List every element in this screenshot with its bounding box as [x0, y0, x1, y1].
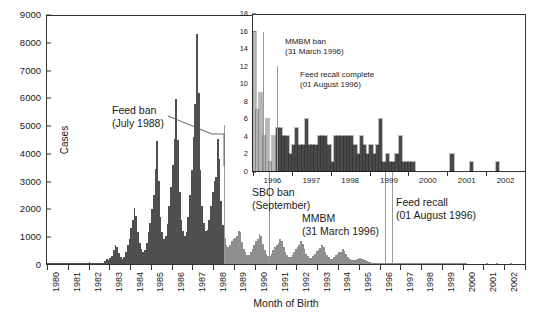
- main-x-tick-mark: [421, 265, 422, 270]
- main-x-tick-label: 1986: [177, 272, 186, 292]
- main-y-tick-label: 2000: [20, 205, 41, 215]
- main-bar: [465, 263, 467, 264]
- main-bar: [496, 263, 498, 264]
- inset-x-tick-mark: [370, 172, 371, 176]
- inset-x-tick-mark: [253, 172, 254, 176]
- main-y-tick-label: 7000: [20, 66, 41, 76]
- main-x-tick-mark: [172, 265, 173, 270]
- main-x-tick-mark: [255, 265, 256, 270]
- main-x-tick-label: 1994: [343, 272, 352, 292]
- main-x-tick-mark: [192, 265, 193, 270]
- annotation-mmbm-ban-inset: MMBM ban (31 March 1996): [285, 37, 344, 58]
- main-x-tick-mark: [359, 265, 360, 270]
- inset-y-tick-label: 0: [244, 168, 248, 176]
- inset-y-tick-label: 2: [244, 151, 248, 159]
- main-x-tick-label: 1999: [447, 272, 456, 292]
- main-x-tick-label: 2000: [468, 272, 477, 292]
- main-x-tick-label: 1985: [156, 272, 165, 292]
- main-x-tick-mark: [525, 265, 526, 270]
- main-x-tick-mark: [234, 265, 235, 270]
- bse-cases-by-month-of-birth-figure: Cases 0100020003000400050006000700080009…: [0, 0, 539, 318]
- annotation-mmbm-ban-inset-line2: (31 March 1996): [285, 47, 344, 57]
- inset-y-tick-label: 10: [240, 80, 248, 88]
- main-y-tick-label: 1000: [20, 232, 41, 242]
- main-x-tick-label: 1984: [136, 272, 145, 292]
- main-x-tick-mark: [130, 265, 131, 270]
- main-x-tick-mark: [213, 265, 214, 270]
- inset-bar: [450, 154, 453, 171]
- main-y-tick-label: 5000: [20, 121, 41, 131]
- main-x-tick-label: 1998: [426, 272, 435, 292]
- annotation-feed-recall-inset: Feed recall complete (01 August 1996): [300, 70, 374, 91]
- inset-marker-line-feed-recall-complete: [277, 66, 278, 171]
- annotation-feed-recall-line1: Feed recall: [396, 196, 476, 209]
- main-y-tick-label: 9000: [20, 10, 41, 20]
- main-x-tick-label: 1996: [385, 272, 394, 292]
- annotation-mmbm-line2: (31 March 1996): [302, 225, 379, 238]
- inset-x-tick-label: 1997: [302, 177, 320, 185]
- annotation-feed-ban: Feed ban (July 1988): [112, 104, 164, 130]
- inset-y-tick-label: 8: [244, 98, 248, 106]
- inset-y-tick-label: 6: [244, 116, 248, 124]
- main-x-tick-label: 1981: [73, 272, 82, 292]
- inset-bar: [411, 162, 414, 171]
- main-x-tick-label: 1997: [406, 272, 415, 292]
- main-x-tick-label: 2002: [510, 272, 519, 292]
- main-x-tick-label: 1987: [198, 272, 207, 292]
- main-y-tick-label: 8000: [20, 38, 41, 48]
- main-y-tick-label: 6000: [20, 94, 41, 104]
- main-x-tick-mark: [296, 265, 297, 270]
- inset-y-tick-label: 12: [240, 63, 248, 71]
- main-x-tick-mark: [504, 265, 505, 270]
- main-x-tick-label: 1993: [323, 272, 332, 292]
- inset-x-tick-mark: [408, 172, 409, 176]
- annotation-feed-recall-line2: (01 August 1996): [396, 209, 476, 222]
- inset-y-tick-label: 4: [244, 133, 248, 141]
- main-bar: [510, 263, 512, 264]
- main-x-tick-mark: [89, 265, 90, 270]
- main-x-tick-label: 1995: [364, 272, 373, 292]
- annotation-mmbm-line1: MMBM: [302, 212, 379, 225]
- inset-bar: [496, 162, 499, 171]
- annotation-feed-recall: Feed recall (01 August 1996): [396, 196, 476, 222]
- main-x-tick-mark: [400, 265, 401, 270]
- main-x-tick-mark: [68, 265, 69, 270]
- annotation-mmbm: MMBM (31 March 1996): [302, 212, 379, 238]
- main-x-tick-mark: [109, 265, 110, 270]
- annotation-sbo-ban: SBO ban (September): [252, 186, 310, 212]
- main-x-tick-label: 1983: [115, 272, 124, 292]
- annotation-mmbm-ban-inset-line1: MMBM ban: [285, 37, 344, 47]
- annotation-sbo-ban-line2: (September): [252, 199, 310, 212]
- inset-y-tick-label: 16: [240, 28, 248, 36]
- inset-x-tick-label: 1996: [264, 177, 282, 185]
- inset-chart: 024681012141618 199619971998199920002001…: [252, 14, 526, 172]
- inset-x-tick-label: 1999: [380, 177, 398, 185]
- main-y-tick-label: 3000: [20, 177, 41, 187]
- inset-x-tick-mark: [525, 172, 526, 176]
- main-x-tick-mark: [47, 265, 48, 270]
- inset-x-tick-label: 1998: [341, 177, 359, 185]
- annotation-feed-ban-leader: [168, 110, 238, 170]
- main-x-tick-label: 1989: [239, 272, 248, 292]
- main-x-tick-mark: [338, 265, 339, 270]
- inset-x-tick-mark: [486, 172, 487, 176]
- main-x-tick-mark: [317, 265, 318, 270]
- annotation-feed-recall-inset-line2: (01 August 1996): [300, 80, 374, 90]
- main-x-tick-label: 1990: [260, 272, 269, 292]
- inset-x-tick-mark: [331, 172, 332, 176]
- inset-y-tick-label: 18: [240, 10, 248, 18]
- main-y-tick-label: 4000: [20, 149, 41, 159]
- inset-x-tick-mark: [292, 172, 293, 176]
- main-x-tick-label: 1982: [94, 272, 103, 292]
- annotation-feed-ban-line1: Feed ban: [112, 104, 164, 117]
- inset-x-tick-label: 2001: [458, 177, 476, 185]
- main-x-axis-label: Month of Birth: [46, 297, 526, 309]
- main-x-tick-label: 1988: [219, 272, 228, 292]
- inset-bar: [470, 162, 473, 171]
- main-x-tick-label: 1991: [281, 272, 290, 292]
- main-x-tick-mark: [151, 265, 152, 270]
- main-x-tick-mark: [276, 265, 277, 270]
- annotation-feed-recall-inset-line1: Feed recall complete: [300, 70, 374, 80]
- main-x-tick-mark: [442, 265, 443, 270]
- annotation-sbo-ban-line1: SBO ban: [252, 186, 310, 199]
